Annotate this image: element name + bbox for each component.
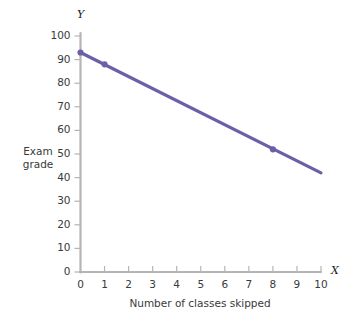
y-tick-label: 10: [45, 241, 71, 253]
y-tick-label: 90: [45, 53, 71, 65]
chart-container: Y X Exam grade Number of classes skipped…: [0, 0, 356, 321]
x-tick-label: 10: [311, 278, 331, 290]
y-tick-label: 40: [45, 171, 71, 183]
y-tick-label: 80: [45, 76, 71, 88]
x-tick-label: 6: [215, 278, 235, 290]
data-point-marker: [270, 146, 276, 152]
y-tick-label: 100: [45, 29, 71, 41]
x-tick-label: 8: [263, 278, 283, 290]
x-tick-label: 0: [71, 278, 91, 290]
y-tick-label: 30: [45, 194, 71, 206]
y-axis-ticks: [75, 36, 81, 272]
x-tick-label: 7: [239, 278, 259, 290]
y-axis-name-label: Y: [77, 8, 84, 21]
data-point-marker: [77, 49, 83, 55]
x-tick-label: 5: [191, 278, 211, 290]
y-tick-label: 0: [45, 265, 71, 277]
x-axis-name-label: X: [331, 264, 339, 277]
x-tick-label: 4: [167, 278, 187, 290]
y-tick-label: 20: [45, 218, 71, 230]
y-tick-label: 70: [45, 100, 71, 112]
x-tick-label: 3: [143, 278, 163, 290]
data-line-series: [81, 53, 322, 173]
y-tick-label: 60: [45, 123, 71, 135]
x-tick-label: 1: [95, 278, 115, 290]
x-axis-title: Number of classes skipped: [100, 297, 300, 309]
y-tick-label: 50: [45, 147, 71, 159]
x-tick-label: 9: [287, 278, 307, 290]
x-tick-label: 2: [119, 278, 139, 290]
data-point-marker: [101, 61, 107, 67]
